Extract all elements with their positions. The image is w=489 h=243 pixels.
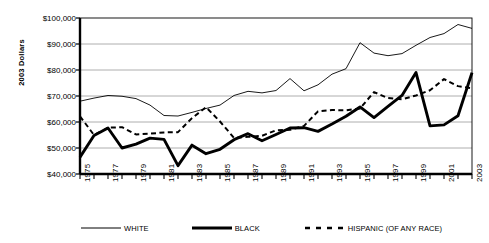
x-tick-label: 1989 <box>279 164 288 182</box>
x-tick-label: 1987 <box>251 164 260 182</box>
x-tick-label: 1985 <box>223 164 232 182</box>
x-tick-label: 2003 <box>475 164 484 182</box>
legend-item-white: WHITE <box>80 223 149 233</box>
legend-label-hispanic: HISPANIC (OF ANY RACE) <box>348 224 442 233</box>
x-tick-label: 1977 <box>111 164 120 182</box>
chart-legend: WHITE BLACK HISPANIC (OF ANY RACE) <box>60 219 460 237</box>
x-tick-label: 1983 <box>195 164 204 182</box>
legend-item-hispanic: HISPANIC (OF ANY RACE) <box>304 223 442 233</box>
x-tick-label: 1995 <box>363 164 372 182</box>
x-tick-label: 1993 <box>335 164 344 182</box>
legend-swatch-hispanic <box>304 223 346 233</box>
x-tick-label: 1981 <box>167 164 176 182</box>
x-axis-tick-labels: 1975197719791981198319851987198919911993… <box>0 0 489 243</box>
legend-item-black: BLACK <box>191 223 260 233</box>
x-tick-label: 1991 <box>307 164 316 182</box>
x-tick-label: 1975 <box>83 164 92 182</box>
x-tick-label: 2001 <box>447 164 456 182</box>
legend-swatch-white <box>80 223 122 233</box>
x-tick-label: 1979 <box>139 164 148 182</box>
x-tick-label: 1999 <box>419 164 428 182</box>
income-by-race-line-chart: 2003 Dollars $40,000$50,000$60,000$70,00… <box>0 0 489 243</box>
legend-label-white: WHITE <box>124 224 149 233</box>
legend-label-black: BLACK <box>235 224 260 233</box>
legend-swatch-black <box>191 223 233 233</box>
x-tick-label: 1997 <box>391 164 400 182</box>
